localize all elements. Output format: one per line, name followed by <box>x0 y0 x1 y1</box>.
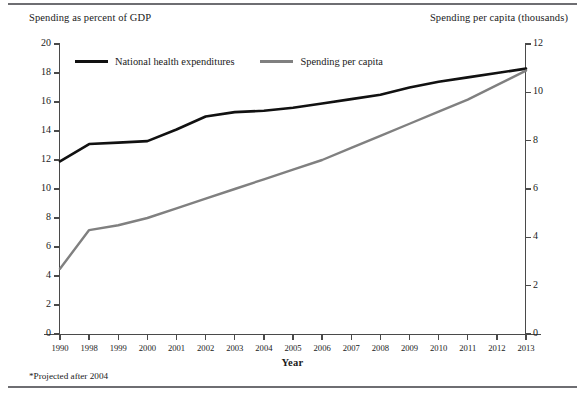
left-y-tick-label: 16 <box>41 95 51 106</box>
x-tick <box>147 335 148 340</box>
right-y-tick-label: 10 <box>533 85 543 96</box>
left-y-tick <box>54 275 59 276</box>
left-y-tick-label: 12 <box>41 153 51 164</box>
series-lines <box>60 44 526 334</box>
left-y-tick <box>54 130 59 131</box>
left-y-tick <box>54 43 59 44</box>
series-line <box>60 71 526 269</box>
x-tick-label: 2012 <box>488 343 505 353</box>
left-y-tick-label: 0 <box>46 327 51 338</box>
right-y-tick-label: 8 <box>533 134 538 145</box>
left-y-tick <box>54 101 59 102</box>
left-y-tick <box>54 217 59 218</box>
x-tick-label: 2002 <box>197 343 214 353</box>
left-y-tick-label: 2 <box>46 298 51 309</box>
x-tick <box>525 335 526 340</box>
figure-container: Spending as percent of GDP Spending per … <box>0 0 585 402</box>
right-y-tick-label: 4 <box>533 230 538 241</box>
right-y-tick <box>526 43 531 44</box>
right-y-tick <box>526 140 531 141</box>
left-y-tick-label: 20 <box>41 37 51 48</box>
left-y-tick <box>54 72 59 73</box>
footnote: *Projected after 2004 <box>29 371 108 381</box>
x-tick <box>467 335 468 340</box>
x-tick-label: 1990 <box>51 343 68 353</box>
x-tick-label: 2000 <box>139 343 156 353</box>
x-tick <box>59 335 60 340</box>
left-y-tick-label: 18 <box>41 66 51 77</box>
x-tick <box>176 335 177 340</box>
left-y-tick-label: 14 <box>41 124 51 135</box>
legend-swatch-icon <box>260 60 293 63</box>
x-tick <box>321 335 322 340</box>
x-tick-label: 2009 <box>401 343 418 353</box>
x-tick <box>292 335 293 340</box>
x-tick-label: 2007 <box>343 343 360 353</box>
legend-item: National health expenditures <box>75 56 234 67</box>
legend-item: Spending per capita <box>260 56 383 67</box>
left-y-tick <box>54 333 59 334</box>
x-tick <box>118 335 119 340</box>
bottom-divider-rule <box>8 386 577 388</box>
x-tick-label: 2005 <box>284 343 301 353</box>
left-y-tick-label: 6 <box>46 240 51 251</box>
chart-legend: National health expendituresSpending per… <box>75 56 383 67</box>
legend-swatch-icon <box>75 60 108 63</box>
legend-label: National health expenditures <box>115 56 234 67</box>
x-tick-label: 2004 <box>255 343 272 353</box>
x-tick <box>380 335 381 340</box>
x-axis-label: Year <box>0 357 585 368</box>
x-tick <box>409 335 410 340</box>
left-y-tick <box>54 246 59 247</box>
left-axis-title: Spending as percent of GDP <box>29 12 151 23</box>
right-y-tick <box>526 285 531 286</box>
x-tick-label: 2003 <box>226 343 243 353</box>
x-tick <box>496 335 497 340</box>
left-y-tick-label: 8 <box>46 211 51 222</box>
x-tick <box>88 335 89 340</box>
right-y-tick-label: 0 <box>533 327 538 338</box>
x-tick <box>205 335 206 340</box>
left-y-tick <box>54 159 59 160</box>
series-line <box>60 69 526 162</box>
left-y-tick <box>54 304 59 305</box>
right-y-tick <box>526 188 531 189</box>
left-y-tick-label: 4 <box>46 269 51 280</box>
left-y-tick-label: 10 <box>41 182 51 193</box>
right-y-tick-label: 6 <box>533 182 538 193</box>
legend-label: Spending per capita <box>300 56 383 67</box>
x-tick-label: 2013 <box>517 343 534 353</box>
x-tick <box>438 335 439 340</box>
right-axis-title: Spending per capita (thousands) <box>430 12 568 23</box>
x-tick <box>351 335 352 340</box>
left-y-tick <box>54 188 59 189</box>
x-tick-label: 1999 <box>110 343 127 353</box>
x-tick <box>263 335 264 340</box>
right-y-tick <box>526 237 531 238</box>
x-tick-label: 1998 <box>81 343 98 353</box>
right-y-tick-label: 12 <box>533 37 543 48</box>
x-tick <box>234 335 235 340</box>
x-tick-label: 2006 <box>314 343 331 353</box>
x-tick-label: 2011 <box>459 343 476 353</box>
right-y-tick <box>526 92 531 93</box>
right-y-tick <box>526 333 531 334</box>
top-divider-rule <box>8 3 577 5</box>
x-tick-label: 2001 <box>168 343 185 353</box>
x-tick-label: 2008 <box>372 343 389 353</box>
x-tick-label: 2010 <box>430 343 447 353</box>
plot-area <box>60 44 526 334</box>
right-y-tick-label: 2 <box>533 279 538 290</box>
